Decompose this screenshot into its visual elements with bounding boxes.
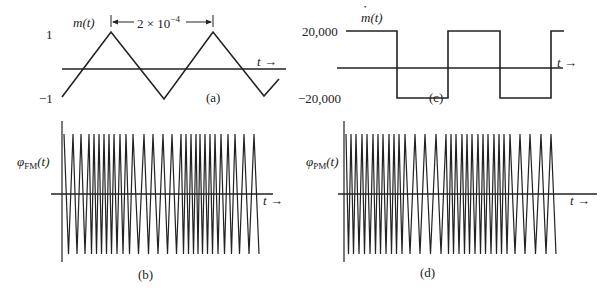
- panel-c-caption: (c): [429, 91, 443, 104]
- panel-a-ylabel: m(t): [73, 16, 95, 29]
- square-wave-mdot-t: [346, 31, 564, 98]
- axis-t: t: [257, 54, 261, 69]
- panel-a-caption: (a): [206, 91, 220, 104]
- panel-d-ylabel: φPM(t): [306, 155, 339, 171]
- axis-t: t: [557, 55, 561, 70]
- panel-a-tick-bottom: −1: [39, 92, 53, 105]
- ylabel-sub: PM: [313, 161, 326, 171]
- axis-arrow-icon: →: [264, 54, 277, 69]
- axis-arrow-icon: →: [270, 193, 283, 208]
- axis-arrow-icon: →: [577, 193, 590, 208]
- ylabel-arg: (t): [37, 154, 49, 169]
- panel-d-axis-label: t →: [570, 194, 590, 207]
- panel-d-caption: (d): [420, 266, 435, 279]
- axis-arrow-icon: →: [564, 55, 577, 70]
- panel-b-caption: (b): [138, 268, 153, 281]
- panel-b: [51, 121, 273, 262]
- arrowhead-left: [112, 20, 118, 25]
- period-exponent: −4: [170, 14, 180, 24]
- period-label: 2 × 10−4: [137, 15, 180, 30]
- ylabel-func: m: [73, 15, 82, 30]
- panel-d: [338, 121, 597, 262]
- figure-canvas: [0, 0, 615, 288]
- axis-t: t: [263, 193, 267, 208]
- ylabel-func-dot: m: [361, 11, 370, 24]
- panel-c-tick-top: 20,000: [302, 25, 338, 38]
- arrowhead-right: [206, 20, 212, 25]
- ylabel-arg: (t): [326, 154, 338, 169]
- triangle-wave-m-t: [62, 32, 279, 99]
- axis-t: t: [570, 193, 574, 208]
- panel-c: [337, 31, 564, 98]
- panel-b-ylabel: φFM(t): [17, 155, 50, 171]
- panel-c-ylabel: m(t): [361, 11, 383, 24]
- panel-a-axis-label: t →: [257, 55, 277, 68]
- panel-a-tick-top: 1: [46, 28, 53, 41]
- period-base: 2 × 10: [137, 16, 170, 31]
- ylabel-arg: (t): [370, 10, 382, 25]
- ylabel-arg: (t): [82, 15, 94, 30]
- panel-c-axis-label: t →: [557, 56, 577, 69]
- panel-b-axis-label: t →: [263, 194, 283, 207]
- panel-c-tick-bottom: −20,000: [298, 92, 341, 105]
- ylabel-sub: FM: [24, 161, 37, 171]
